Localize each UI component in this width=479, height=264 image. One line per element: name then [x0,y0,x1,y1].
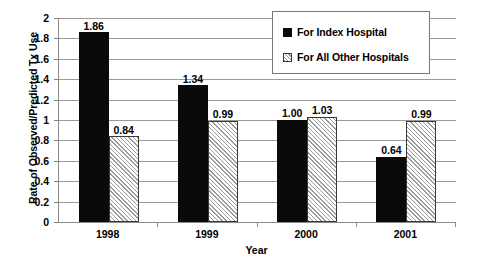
bar-group: 1.340.99 [158,18,257,222]
bar-chart: Rate of Observed/Predicted Tx Use 00.20.… [0,0,479,264]
y-axis-ticks: 00.20.40.60.811.21.41.61.82 [0,0,58,264]
bar-group: 1.860.84 [59,18,158,222]
legend-swatch-solid-icon [283,28,292,37]
y-tick-label: 1 [7,115,49,126]
legend-item-all-other-hospitals: For All Other Hospitals [283,46,429,68]
bar-value-label: 1.03 [312,105,332,117]
x-tick-mark [455,222,456,227]
bar-value-label: 0.99 [213,109,233,121]
y-tick-label: 1.2 [7,94,49,105]
legend-label: For Index Hospital [297,26,387,38]
y-tick-label: 0.6 [7,156,49,167]
x-tick-label: 1998 [73,229,143,240]
bar-value-label: 1.86 [83,21,103,33]
bar[interactable]: 1.34 [178,85,208,222]
legend-swatch-hatch-icon [283,53,292,62]
legend-item-index-hospital: For Index Hospital [283,21,429,43]
bar[interactable]: 0.64 [376,157,406,222]
chart-legend: For Index Hospital For All Other Hospita… [272,11,430,74]
x-tick-mark [157,222,158,227]
bar-value-label: 0.99 [411,109,431,121]
x-tick-mark [257,222,258,227]
bar[interactable]: 1.86 [79,32,109,222]
y-tick-label: 1.8 [7,33,49,44]
y-tick-label: 1.4 [7,74,49,85]
bar[interactable]: 0.99 [208,121,238,222]
x-tick-label: 1999 [172,229,242,240]
bar-value-label: 0.64 [381,145,401,157]
bar[interactable]: 1.03 [307,117,337,222]
x-tick-label: 2001 [370,229,440,240]
bar[interactable]: 1.00 [277,120,307,222]
y-tick-label: 0 [7,217,49,228]
x-axis-title: Year [58,245,455,256]
x-tick-label: 2000 [271,229,341,240]
bar-value-label: 1.00 [282,108,302,120]
bar[interactable]: 0.84 [109,136,139,222]
y-tick-label: 0.8 [7,135,49,146]
legend-label: For All Other Hospitals [297,51,409,63]
y-tick-label: 0.2 [7,196,49,207]
bar-value-label: 0.84 [113,125,133,137]
x-tick-mark [356,222,357,227]
y-tick-label: 0.4 [7,176,49,187]
x-axis-ticks: 1998199920002001 [58,222,455,246]
y-tick-label: 2 [7,13,49,24]
bar-value-label: 1.34 [183,74,203,86]
y-tick-label: 1.6 [7,54,49,65]
bar[interactable]: 0.99 [406,121,436,222]
